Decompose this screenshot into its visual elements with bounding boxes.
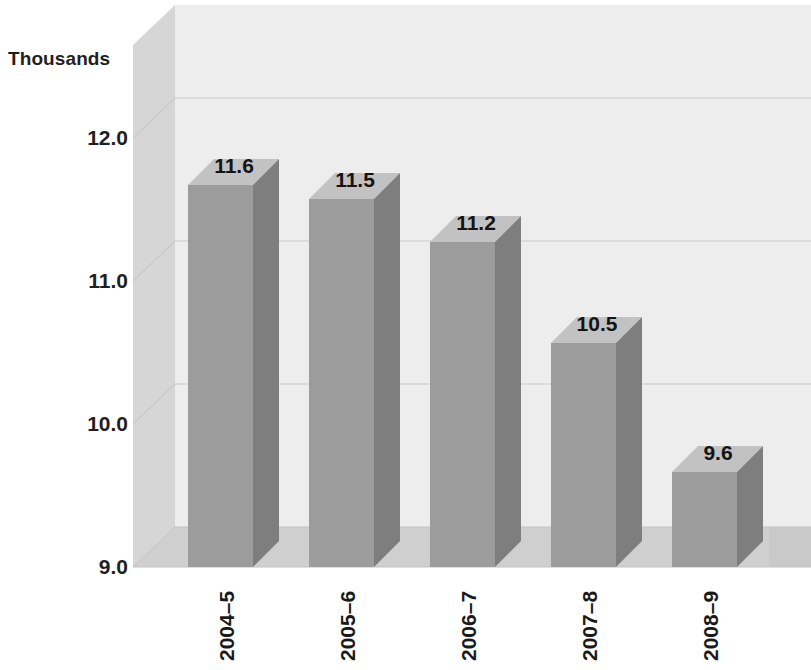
y-tick-10: 10.0: [8, 412, 128, 436]
y-tick-11: 11.0: [8, 269, 128, 293]
bar-side-face: [616, 317, 642, 567]
bar-front-face: [430, 242, 495, 567]
left-wall: [133, 5, 175, 567]
bar-side-face: [495, 216, 521, 567]
x-tick-2006-7: 2006–7: [457, 591, 481, 661]
bar-side-face: [374, 173, 400, 567]
bar-2006-7[interactable]: [430, 216, 521, 567]
bar-2004-5[interactable]: [188, 159, 279, 567]
chart-root: Thousands 12.0 11.0 10.0 9.0 11.6 11.5 1…: [0, 0, 811, 670]
floor-right-edge: [769, 527, 811, 567]
bar-2005-6[interactable]: [309, 173, 400, 567]
y-tick-12: 12.0: [8, 126, 128, 150]
bar-value-2008-9: 9.6: [674, 441, 762, 465]
y-tick-9: 9.0: [8, 555, 128, 579]
y-axis-tick-labels: 12.0 11.0 10.0 9.0: [0, 0, 128, 670]
bar-value-2004-5: 11.6: [190, 154, 278, 178]
x-tick-2005-6: 2005–6: [336, 591, 360, 661]
bar-value-2005-6: 11.5: [311, 168, 399, 192]
bar-front-face: [188, 185, 253, 567]
bar-value-2006-7: 11.2: [432, 211, 520, 235]
bar-front-face: [309, 199, 374, 567]
bar-side-face: [253, 159, 279, 567]
bar-value-2007-8: 10.5: [553, 312, 641, 336]
bar-front-face: [551, 343, 616, 567]
bar-2007-8[interactable]: [551, 317, 642, 567]
x-tick-2004-5: 2004–5: [215, 591, 239, 661]
bar-front-face: [672, 472, 737, 567]
x-tick-2007-8: 2007–8: [578, 591, 602, 661]
x-tick-2008-9: 2008–9: [699, 591, 723, 661]
